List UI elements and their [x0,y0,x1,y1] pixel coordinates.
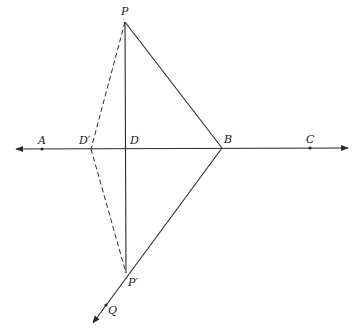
label-p: P [120,5,129,18]
label-p-prime: P′ [127,276,138,289]
label-b: B [223,133,232,146]
label-a: A [37,134,46,147]
label-q: Q [108,304,117,317]
line-ac [16,148,348,149]
label-d: D [129,134,139,147]
point-a-dot [40,147,43,150]
ray-bq [93,148,222,323]
dashed-segment-pd-prime [91,22,125,149]
segment-pp-prime [125,22,126,273]
label-d-prime: D′ [78,134,91,147]
dashed-segment-d-prime-p-prime [91,149,126,273]
label-c: C [306,133,315,146]
point-c-dot [308,146,311,149]
geometry-diagram: P A D′ D B C P′ Q [0,0,357,332]
segment-pb [125,22,222,148]
